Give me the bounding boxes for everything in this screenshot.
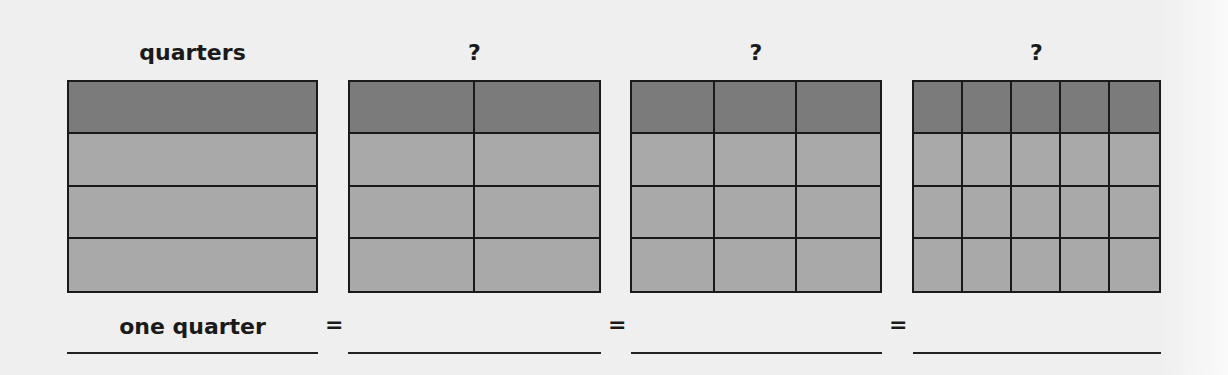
unshaded-cell (475, 239, 600, 291)
unshaded-cell (69, 134, 316, 186)
shaded-cell (715, 82, 798, 134)
unshaded-cell (963, 239, 1012, 291)
unshaded-cell (1110, 134, 1159, 186)
heading-question-4: ? (912, 40, 1161, 65)
shaded-cell (475, 82, 600, 134)
unshaded-cell (475, 134, 600, 186)
unshaded-cell (1061, 187, 1110, 239)
answer-line-1 (67, 352, 318, 354)
unshaded-cell (963, 187, 1012, 239)
unshaded-cell (632, 239, 715, 291)
unshaded-cell (1110, 239, 1159, 291)
unshaded-cell (914, 239, 963, 291)
heading-question-2: ? (348, 40, 601, 65)
unshaded-cell (632, 187, 715, 239)
shaded-cell (1110, 82, 1159, 134)
shaded-cell (963, 82, 1012, 134)
unshaded-cell (797, 187, 880, 239)
equals-sign-1: = (325, 312, 343, 337)
unshaded-cell (350, 239, 475, 291)
shaded-cell (69, 82, 316, 134)
fraction-grid-twelfths (630, 80, 882, 293)
shaded-cell (632, 82, 715, 134)
shaded-cell (1012, 82, 1061, 134)
unshaded-cell (1012, 187, 1061, 239)
unshaded-cell (69, 187, 316, 239)
unshaded-cell (715, 187, 798, 239)
fraction-grid-eighths (348, 80, 601, 293)
unshaded-cell (1061, 134, 1110, 186)
shaded-cell (350, 82, 475, 134)
answer-line-4 (913, 352, 1161, 354)
unshaded-cell (797, 239, 880, 291)
equals-sign-2: = (608, 312, 626, 337)
answer-label-1: one quarter (67, 314, 318, 339)
equals-sign-3: = (889, 312, 907, 337)
shaded-cell (1061, 82, 1110, 134)
unshaded-cell (797, 134, 880, 186)
fraction-grid-twentieths (912, 80, 1161, 293)
unshaded-cell (1012, 239, 1061, 291)
answer-line-3 (631, 352, 882, 354)
heading-question-3: ? (630, 40, 882, 65)
unshaded-cell (350, 187, 475, 239)
unshaded-cell (715, 239, 798, 291)
unshaded-cell (350, 134, 475, 186)
answer-line-2 (348, 352, 601, 354)
unshaded-cell (1061, 239, 1110, 291)
unshaded-cell (914, 187, 963, 239)
page-edge-shadow (1158, 0, 1228, 375)
unshaded-cell (1110, 187, 1159, 239)
unshaded-cell (1012, 134, 1061, 186)
unshaded-cell (963, 134, 1012, 186)
unshaded-cell (914, 134, 963, 186)
shaded-cell (797, 82, 880, 134)
unshaded-cell (715, 134, 798, 186)
unshaded-cell (475, 187, 600, 239)
unshaded-cell (632, 134, 715, 186)
heading-quarters: quarters (67, 40, 318, 65)
shaded-cell (914, 82, 963, 134)
unshaded-cell (69, 239, 316, 291)
fraction-grid-quarters (67, 80, 318, 293)
